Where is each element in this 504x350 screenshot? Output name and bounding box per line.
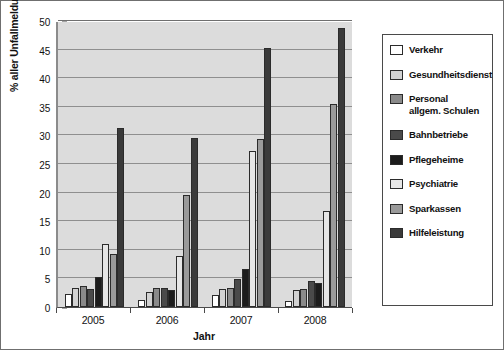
y-tick-label: 10	[24, 245, 50, 256]
bar-2008-psychiatrie	[323, 211, 330, 307]
legend-label: Hilfeleistung	[409, 227, 464, 239]
legend-item-gesundheitsdienst[interactable]: Gesundheitsdienst	[390, 69, 492, 81]
x-axis-tick-labels: 2005200620072008	[56, 314, 352, 326]
legend-swatch-icon	[390, 130, 403, 140]
bar-2007-gesundheitsdienst	[219, 289, 226, 307]
bar-group-2007	[205, 22, 279, 307]
bar-2006-pflegeheime	[168, 290, 175, 307]
legend-item-hilfeleistung[interactable]: Hilfeleistung	[390, 227, 492, 239]
chart-figure: % aller Unfallmeldungen 0510152025303540…	[0, 0, 504, 350]
bar-2005-sparkassen	[110, 254, 117, 307]
bar-2005-pflegeheime	[95, 277, 102, 307]
x-axis-title: Jahr	[56, 330, 352, 342]
legend-label-line2: allgem. Schulen	[409, 105, 479, 116]
legend-item-bahnbetriebe[interactable]: Bahnbetriebe	[390, 129, 492, 141]
legend-label: Pflegeheime	[409, 154, 463, 166]
y-axis-title: % aller Unfallmeldungen	[8, 0, 20, 92]
x-tick-mark	[56, 308, 57, 313]
bar-2008-sparkassen	[330, 104, 337, 307]
legend-swatch-icon	[390, 70, 403, 80]
bar-2006-hilfeleistung	[191, 138, 198, 307]
x-tick-mark	[130, 308, 131, 313]
bar-2006-sparkassen	[183, 195, 190, 307]
bar-2006-gesundheitsdienst	[146, 292, 153, 307]
bar-2007-psychiatrie	[249, 151, 256, 307]
bar-2008-pflegeheime	[315, 283, 322, 307]
y-tick-label: 25	[24, 160, 50, 171]
plot-panel	[56, 22, 352, 308]
bar-2007-personal-allgem-schulen	[227, 288, 234, 307]
x-tick-label: 2008	[278, 314, 352, 326]
legend-swatch-icon	[390, 228, 403, 238]
bar-2007-verkehr	[212, 295, 219, 307]
x-tick-mark	[278, 308, 279, 313]
y-tick-label: 35	[24, 102, 50, 113]
bar-2007-hilfeleistung	[264, 48, 271, 307]
bar-2008-verkehr	[285, 301, 292, 307]
x-tick-mark	[352, 308, 353, 313]
y-tick-label: 40	[24, 74, 50, 85]
bar-2007-pflegeheime	[242, 269, 249, 307]
bar-2005-gesundheitsdienst	[72, 288, 79, 307]
legend-item-personal[interactable]: Personalallgem. Schulen	[390, 93, 492, 116]
bar-2007-sparkassen	[257, 139, 264, 307]
legend-label: Psychiatrie	[409, 178, 458, 190]
bar-2005-personal-allgem-schulen	[80, 286, 87, 307]
y-tick-label: 20	[24, 188, 50, 199]
bar-2008-personal-allgem-schulen	[300, 289, 307, 307]
y-axis-tick-labels: 05101520253035404550	[24, 14, 50, 310]
legend-swatch-icon	[390, 155, 403, 165]
bar-2005-psychiatrie	[102, 244, 109, 307]
bar-groups	[58, 22, 352, 307]
bar-2005-hilfeleistung	[117, 128, 124, 307]
legend-label: Gesundheitsdienst	[409, 69, 492, 81]
legend-item-psychiatrie[interactable]: Psychiatrie	[390, 178, 492, 190]
x-tick-mark	[204, 308, 205, 313]
legend-item-pflegeheime[interactable]: Pflegeheime	[390, 154, 492, 166]
bar-2008-gesundheitsdienst	[293, 290, 300, 307]
legend-swatch-icon	[390, 45, 403, 55]
legend-label: Bahnbetriebe	[409, 129, 468, 141]
legend-label: Verkehr	[409, 44, 443, 56]
bar-group-2006	[132, 22, 206, 307]
y-tick-label: 5	[24, 274, 50, 285]
x-tick-label: 2006	[130, 314, 204, 326]
bar-2006-personal-allgem-schulen	[153, 288, 160, 307]
chart-legend: VerkehrGesundheitsdienstPersonalallgem. …	[382, 34, 493, 306]
gridline	[58, 20, 352, 21]
legend-label: Sparkassen	[409, 203, 461, 215]
bar-2006-bahnbetriebe	[161, 288, 168, 307]
bar-group-2008	[279, 22, 353, 307]
x-tick-label: 2007	[204, 314, 278, 326]
bar-2006-psychiatrie	[176, 256, 183, 307]
plot-area-wrapper: % aller Unfallmeldungen 0510152025303540…	[12, 14, 362, 337]
legend-swatch-icon	[390, 94, 403, 104]
legend-label-line1: Personal	[409, 93, 448, 104]
x-tick-label: 2005	[56, 314, 130, 326]
bar-2006-verkehr	[138, 300, 145, 307]
legend-swatch-icon	[390, 204, 403, 214]
y-tick-label: 0	[24, 303, 50, 314]
bar-group-2005	[58, 22, 132, 307]
legend-item-sparkassen[interactable]: Sparkassen	[390, 203, 492, 215]
bar-2008-bahnbetriebe	[308, 281, 315, 307]
y-tick-label: 50	[24, 17, 50, 28]
legend-item-verkehr[interactable]: Verkehr	[390, 44, 492, 56]
bar-2008-hilfeleistung	[338, 28, 345, 307]
bar-2005-verkehr	[65, 294, 72, 307]
legend-swatch-icon	[390, 179, 403, 189]
legend-label: Personalallgem. Schulen	[409, 93, 479, 116]
bar-2005-bahnbetriebe	[87, 289, 94, 307]
y-tick-label: 30	[24, 131, 50, 142]
bar-2007-bahnbetriebe	[234, 279, 241, 307]
y-tick-label: 45	[24, 45, 50, 56]
y-tick-label: 15	[24, 217, 50, 228]
